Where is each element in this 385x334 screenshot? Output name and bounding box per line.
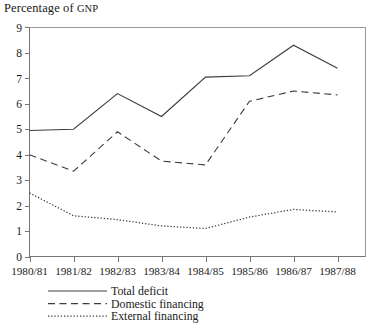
x-axis-tick-marks [30,257,338,263]
y-axis-tick-label: 2 [16,200,22,212]
y-axis-tick-label: 4 [16,149,22,161]
y-axis-tick-label: 7 [16,73,22,85]
y-axis-tick-label: 3 [16,174,22,186]
y-axis-tick-label: 6 [16,98,22,110]
series-line-dotted [30,193,338,229]
series-line-solid [30,45,338,130]
chart-figure: Percentage of GNP 0123456789 1980/811981… [0,0,385,334]
x-axis-tick-label: 1986/87 [275,265,312,277]
data-series-group [30,45,338,228]
x-axis-tick-label: 1987/88 [319,265,356,277]
y-axis-tick-labels: 0123456789 [16,22,22,263]
x-axis-tick-label: 1982/83 [99,265,136,277]
x-axis-tick-label: 1980/81 [11,265,48,277]
line-chart-plot: 0123456789 1980/811981/821982/831983/841… [0,0,385,334]
y-axis-tick-marks [25,28,30,257]
y-axis-tick-label: 8 [16,47,22,59]
y-axis-tick-label: 9 [16,22,22,34]
x-axis-tick-label: 1981/82 [55,265,92,277]
legend-label: External financing [111,309,199,323]
x-axis-tick-labels: 1980/811981/821982/831983/841984/851985/… [11,265,356,277]
chart-legend: Total deficitDomestic financingExternal … [48,284,204,323]
x-axis-tick-label: 1984/85 [187,265,224,277]
series-line-dashed [30,91,338,171]
x-axis-tick-label: 1983/84 [143,265,180,277]
y-axis-tick-label: 0 [16,251,22,263]
x-axis-tick-label: 1985/86 [231,265,268,277]
y-axis-tick-label: 1 [16,225,22,237]
y-axis-tick-label: 5 [16,123,22,135]
